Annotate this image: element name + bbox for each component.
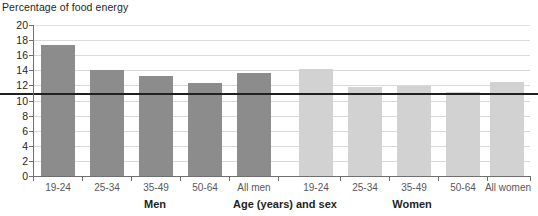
x-tick-9 bbox=[487, 176, 488, 181]
x-tick-8 bbox=[438, 176, 439, 181]
y-tick-10 bbox=[29, 101, 33, 102]
y-tick-label-10: 10 bbox=[4, 95, 28, 107]
x-tick-label-all-women: All women bbox=[485, 182, 531, 193]
x-tick-label-men-35-49: 35-49 bbox=[143, 182, 169, 193]
y-tick-18 bbox=[29, 40, 33, 41]
bar-men-50-64 bbox=[188, 83, 222, 176]
x-axis-line bbox=[33, 176, 530, 177]
x-tick-label-men-19-24: 19-24 bbox=[45, 182, 71, 193]
x-tick-1 bbox=[82, 176, 83, 181]
y-tick-label-12: 12 bbox=[4, 79, 28, 91]
x-tick-6 bbox=[340, 176, 341, 181]
y-tick-label-16: 16 bbox=[4, 49, 28, 61]
bars-layer bbox=[33, 25, 530, 176]
bar-men-19-24 bbox=[41, 45, 75, 176]
y-axis-line bbox=[33, 25, 34, 177]
x-tick-label-men-25-34: 25-34 bbox=[94, 182, 120, 193]
x-tick-label-women-25-34: 25-34 bbox=[352, 182, 378, 193]
x-tick-4 bbox=[229, 176, 230, 181]
bar-men-35-49 bbox=[139, 76, 173, 176]
bar-women-all bbox=[490, 82, 524, 176]
y-tick-8 bbox=[29, 116, 33, 117]
x-tick-label-women-35-49: 35-49 bbox=[401, 182, 427, 193]
x-tick-label-women-19-24: 19-24 bbox=[303, 182, 329, 193]
y-tick-label-20: 20 bbox=[4, 19, 28, 31]
bar-women-35-49 bbox=[397, 86, 431, 176]
x-tick-7 bbox=[389, 176, 390, 181]
y-tick-label-6: 6 bbox=[4, 125, 28, 137]
y-tick-12 bbox=[29, 85, 33, 86]
x-tick-0 bbox=[33, 176, 34, 181]
y-tick-label-4: 4 bbox=[4, 140, 28, 152]
bar-women-50-64 bbox=[446, 92, 480, 176]
y-tick-label-14: 14 bbox=[4, 64, 28, 76]
x-tick-2 bbox=[131, 176, 132, 181]
y-tick-label-2: 2 bbox=[4, 155, 28, 167]
x-tick-10 bbox=[530, 176, 531, 181]
y-tick-14 bbox=[29, 70, 33, 71]
x-tick-label-all-men: All men bbox=[237, 182, 270, 193]
x-axis-title: Age (years) and sex bbox=[233, 198, 337, 210]
bar-chart: Percentage of food energy bbox=[0, 0, 538, 216]
y-tick-2 bbox=[29, 161, 33, 162]
x-tick-label-men-50-64: 50-64 bbox=[192, 182, 218, 193]
y-tick-16 bbox=[29, 55, 33, 56]
y-tick-6 bbox=[29, 131, 33, 132]
bar-men-25-34 bbox=[90, 70, 124, 176]
y-tick-labels: 20 18 16 14 12 10 8 6 4 2 0 bbox=[0, 0, 28, 216]
y-tick-label-0: 0 bbox=[4, 170, 28, 182]
x-tick-3 bbox=[180, 176, 181, 181]
reference-line-11-percent bbox=[0, 93, 538, 95]
y-tick-20 bbox=[29, 25, 33, 26]
bar-women-25-34 bbox=[348, 87, 382, 176]
y-tick-label-18: 18 bbox=[4, 34, 28, 46]
y-tick-label-8: 8 bbox=[4, 110, 28, 122]
bar-men-all bbox=[237, 73, 271, 176]
y-tick-4 bbox=[29, 146, 33, 147]
x-tick-label-women-50-64: 50-64 bbox=[450, 182, 476, 193]
x-tick-5 bbox=[278, 176, 279, 181]
group-label-women: Women bbox=[392, 198, 432, 210]
bar-women-19-24 bbox=[299, 69, 333, 176]
group-label-men: Men bbox=[144, 198, 166, 210]
